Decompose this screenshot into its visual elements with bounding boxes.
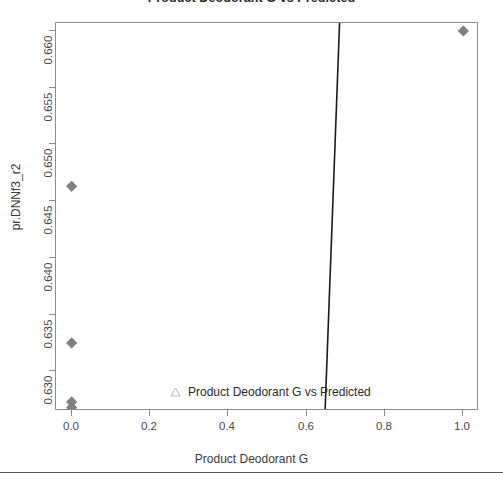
y-axis-tick-label: 0.645: [42, 198, 54, 242]
bottom-separator: [0, 472, 503, 473]
x-axis-tick-label: 1.0: [442, 420, 482, 432]
plot-canvas: [56, 23, 477, 409]
x-axis-tick-label: 0.6: [286, 420, 326, 432]
x-axis-tick: [149, 410, 150, 416]
open-triangle-icon: [170, 387, 181, 397]
x-axis-tick-label: 0.4: [207, 420, 247, 432]
x-axis-tick: [384, 410, 385, 416]
x-axis-tick: [462, 410, 463, 416]
fit-line: [325, 23, 339, 409]
x-axis-tick-label: 0.0: [51, 420, 91, 432]
chart-title: Product Deodorant G vs Predicted: [0, 0, 503, 5]
x-axis-tick-label: 0.2: [129, 420, 169, 432]
data-point-diamond: [458, 25, 469, 36]
y-axis-tick-label: 0.650: [42, 141, 54, 185]
data-point-diamond: [66, 181, 77, 192]
x-axis-tick-label: 0.8: [364, 420, 404, 432]
y-axis-tick-label: 0.635: [42, 312, 54, 356]
y-axis-title: pr.DNNf3_r2: [9, 142, 23, 252]
plot-area: [55, 22, 478, 410]
chart-legend: Product Deodorant G vs Predicted: [170, 385, 371, 399]
x-axis-tick: [227, 410, 228, 416]
x-axis-title: Product Deodorant G: [0, 452, 503, 466]
y-axis-tick-label: 0.630: [42, 368, 54, 412]
legend-label: Product Deodorant G vs Predicted: [188, 385, 371, 399]
data-point-diamond: [66, 337, 77, 348]
x-axis-tick: [306, 410, 307, 416]
data-points-group: [66, 25, 469, 409]
y-axis-tick-label: 0.660: [42, 28, 54, 72]
chart-container: Product Deodorant G vs Predicted 0.6300.…: [0, 0, 503, 487]
y-axis-tick-label: 0.640: [42, 255, 54, 299]
fit-line-segment: [325, 23, 339, 409]
y-axis-tick-label: 0.655: [42, 85, 54, 129]
x-axis-tick: [71, 410, 72, 416]
